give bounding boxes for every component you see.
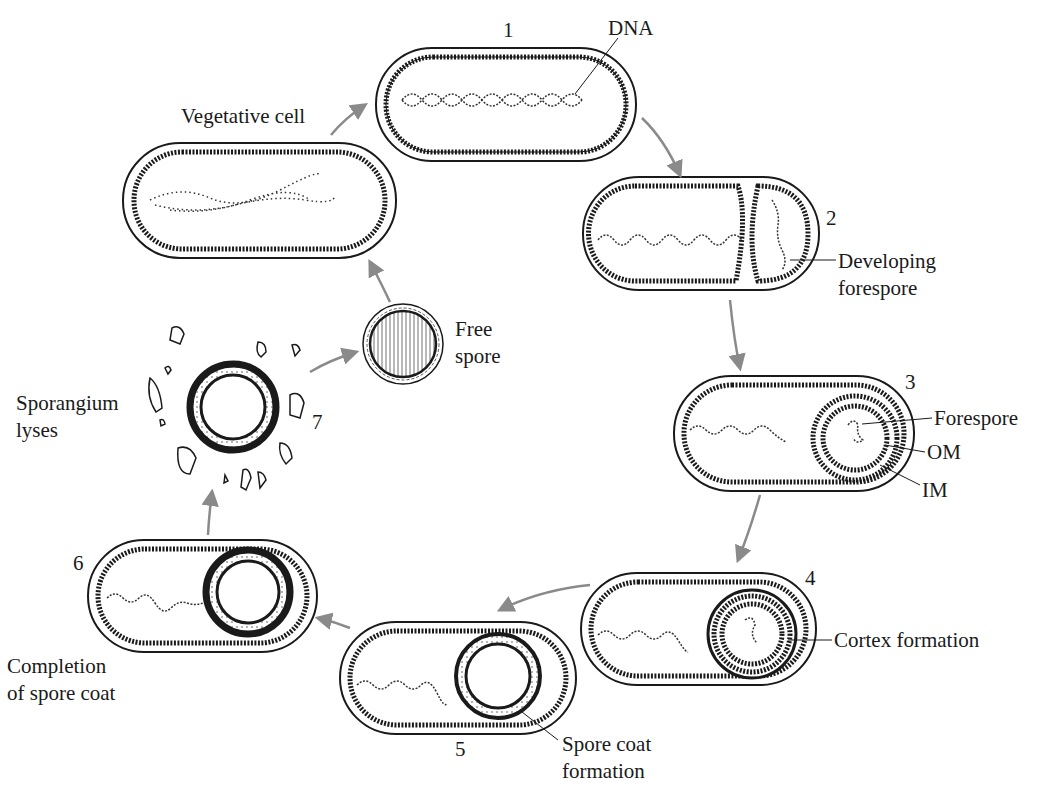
label-lyses: lyses [16,418,58,443]
free-spore [363,304,443,384]
label-sporangium: Sporangium [16,391,119,416]
arrow-7-to-free-spore [310,352,356,372]
cell-stage-6 [88,540,317,652]
label-om: OM [927,440,961,465]
arrow-free-spore-to-vegetative [370,262,390,302]
stage-number-3: 3 [905,370,916,395]
label-im: IM [922,478,948,503]
label-free: Free [455,317,492,342]
label-completion: Completion [7,654,106,679]
arrow-3-to-4 [738,495,760,560]
sporulation-diagram: 1 DNA Vegetative cell 2 Developing fores… [0,0,1045,789]
cell-stage-4 [581,573,832,685]
stage-number-2: 2 [826,206,837,231]
label-formation: formation [562,759,645,784]
arrow-4-to-5 [500,585,590,610]
stage-number-1: 1 [503,18,514,43]
arrow-5-to-6 [318,618,350,628]
label-dna: DNA [608,16,654,41]
diagram-canvas [0,0,1045,789]
stage-number-7: 7 [312,410,323,435]
label-spore: spore [455,344,501,369]
stage-number-4: 4 [805,566,816,591]
stage-number-5: 5 [455,737,466,762]
cell-stage-5 [340,622,576,740]
arrow-2-to-3 [730,300,740,368]
arrow-6-to-7 [208,492,212,535]
stage-number-6: 6 [73,551,84,576]
label-cortex-formation: Cortex formation [834,628,979,653]
stage-7-lysed-sporangium [149,327,304,490]
label-vegetative-cell: Vegetative cell [181,104,305,129]
label-of-spore-coat: of spore coat [7,681,115,706]
cell-stage-1 [376,38,636,161]
label-developing: Developing [838,249,936,274]
arrow-vegetative-to-1 [331,105,365,135]
label-forespore-2: forespore [838,276,917,301]
label-spore-coat: Spore coat [562,732,651,757]
arrow-1-to-2 [642,118,680,175]
cell-stage-2 [583,177,836,290]
cell-stage-3 [674,376,932,491]
vegetative-cell [123,143,396,258]
label-forespore: Forespore [934,406,1018,431]
